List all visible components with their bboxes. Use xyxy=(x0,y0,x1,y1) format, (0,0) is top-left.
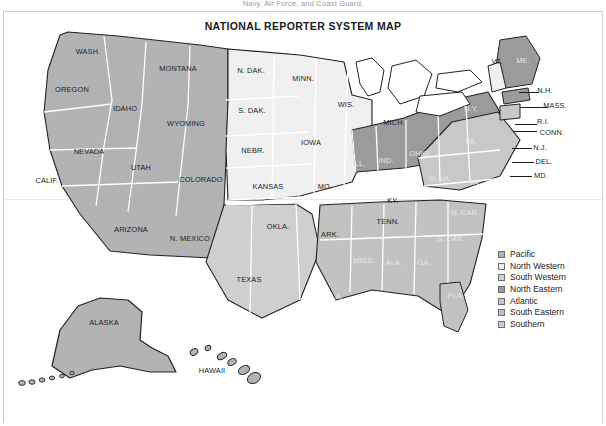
callout-leader-line xyxy=(520,107,548,108)
legend-swatch-icon xyxy=(498,263,505,270)
legend-item-label: Southern xyxy=(510,319,545,330)
map-page: Navy, Air Force, and Coast Guard. NATION… xyxy=(0,0,606,426)
south-western-region-shape xyxy=(206,204,320,318)
hawaiian-island-shape xyxy=(204,344,212,351)
aleutian-island-shape xyxy=(19,381,26,386)
hawaiian-island-shape xyxy=(189,347,199,356)
legend-swatch-icon xyxy=(498,251,505,258)
lake-ontario-shape xyxy=(436,70,482,92)
hawaiian-island-shape xyxy=(227,357,238,367)
callout-leader-line xyxy=(515,124,537,125)
hawaiian-island-shape xyxy=(237,364,251,377)
hawaiian-island-shape xyxy=(216,351,228,361)
pacific-region-shape xyxy=(44,32,228,258)
aleutian-island-shape xyxy=(49,376,54,380)
callout-leader-line xyxy=(512,148,532,149)
legend-item-label: South Eastern xyxy=(510,307,564,318)
legend-item[interactable]: North Eastern xyxy=(498,284,582,296)
legend-item[interactable]: North Western xyxy=(498,261,582,273)
legend-item-label: South Western xyxy=(510,272,566,283)
legend-swatch-icon xyxy=(498,274,505,281)
legend-item-label: Atlantic xyxy=(510,296,538,307)
us-map-graphic xyxy=(0,0,606,426)
callout-leader-line xyxy=(510,176,532,177)
legend-swatch-icon xyxy=(498,298,505,305)
legend-item-label: North Eastern xyxy=(510,284,562,295)
legend-item[interactable]: Pacific xyxy=(498,249,582,261)
legend-swatch-icon xyxy=(498,321,505,328)
connecticut-shape xyxy=(500,104,520,120)
legend-item[interactable]: South Eastern xyxy=(498,307,582,319)
north-western-region-shape xyxy=(226,49,372,200)
legend-item-label: Pacific xyxy=(510,249,535,260)
legend-item[interactable]: Atlantic xyxy=(498,295,582,307)
aleutian-island-shape xyxy=(29,380,35,385)
massachusetts-shape xyxy=(502,88,530,104)
aleutian-island-shape xyxy=(70,371,74,374)
aleutian-island-shape xyxy=(60,374,65,378)
callout-leader-line xyxy=(512,162,534,163)
aleutian-island-shape xyxy=(39,378,45,382)
alaska-shape xyxy=(52,298,176,378)
legend-item[interactable]: Southern xyxy=(498,319,582,331)
lake-michigan-shape xyxy=(356,58,384,96)
callout-leader-line xyxy=(519,92,539,93)
legend-item[interactable]: South Western xyxy=(498,272,582,284)
legend-swatch-icon xyxy=(498,286,505,293)
map-legend: PacificNorth WesternSouth WesternNorth E… xyxy=(498,249,582,330)
legend-swatch-icon xyxy=(498,309,505,316)
legend-item-label: North Western xyxy=(510,261,565,272)
callout-leader-line xyxy=(513,131,537,132)
